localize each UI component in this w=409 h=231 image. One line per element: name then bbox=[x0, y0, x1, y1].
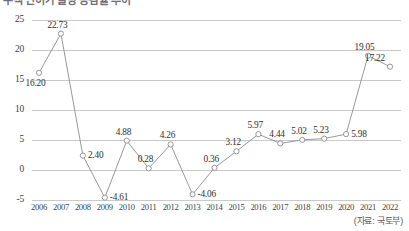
data-point-marker bbox=[102, 195, 107, 200]
data-point-label: -4.06 bbox=[198, 189, 216, 199]
source-note: (자료: 국토부) bbox=[354, 214, 403, 227]
data-point-label: 16.20 bbox=[26, 78, 46, 88]
data-point-label: 17.22 bbox=[365, 53, 385, 63]
data-point-marker bbox=[212, 165, 217, 170]
chart-container: 주택 인허가 물량 증감률 추이 2520151050-5 2006200720… bbox=[0, 0, 409, 231]
data-point-marker bbox=[278, 141, 283, 146]
data-point-label: 4.88 bbox=[116, 127, 131, 137]
data-point-label: 0.36 bbox=[204, 154, 219, 164]
series-line bbox=[39, 34, 390, 198]
data-point-label: 4.26 bbox=[160, 130, 175, 140]
data-point-label: 5.23 bbox=[313, 125, 328, 135]
data-point-marker bbox=[58, 31, 63, 36]
data-point-marker bbox=[124, 138, 129, 143]
data-point-marker bbox=[80, 153, 85, 158]
data-point-label: 3.12 bbox=[225, 137, 240, 147]
data-point-label: 19.05 bbox=[355, 42, 375, 52]
data-point-marker bbox=[36, 70, 41, 75]
data-point-label: 2.40 bbox=[88, 150, 103, 160]
data-point-label: 22.73 bbox=[47, 20, 67, 30]
data-point-label: 5.98 bbox=[351, 129, 366, 139]
data-point-label: -4.61 bbox=[110, 192, 128, 202]
data-point-marker bbox=[190, 192, 195, 197]
data-point-marker bbox=[322, 136, 327, 141]
series-markers bbox=[36, 31, 392, 200]
data-point-marker bbox=[256, 132, 261, 137]
data-point-marker bbox=[168, 142, 173, 147]
data-point-marker bbox=[344, 132, 349, 137]
data-point-label: 5.97 bbox=[247, 120, 262, 130]
data-point-marker bbox=[387, 64, 392, 69]
data-point-marker bbox=[300, 137, 305, 142]
data-point-marker bbox=[146, 166, 151, 171]
plot-area: 2520151050-5 200620072008200920102011201… bbox=[0, 0, 409, 231]
data-point-marker bbox=[234, 149, 239, 154]
data-point-label: 4.44 bbox=[269, 129, 284, 139]
data-point-label: 0.28 bbox=[138, 154, 153, 164]
data-point-label: 5.02 bbox=[291, 126, 306, 136]
